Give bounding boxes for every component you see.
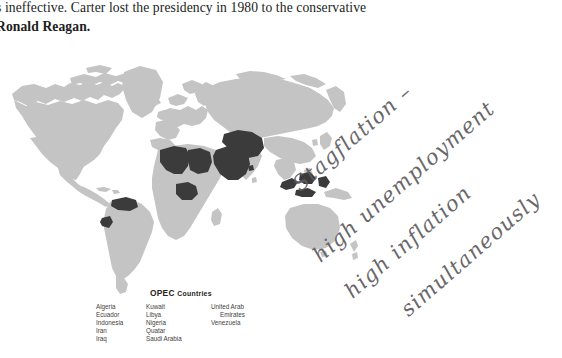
legend-column-3: United Arab Emirates Venezuela <box>211 303 291 343</box>
handwritten-note-simultaneously: simultaneously <box>396 187 545 321</box>
legend-column-1: Algeria Ecuador Indonesia Iran Iraq <box>96 303 146 343</box>
legend-item: Saudi Arabia <box>146 335 211 343</box>
country-libya <box>188 148 212 174</box>
legend-item: Algeria <box>96 303 146 311</box>
handwritten-note-high-inflation: high inflation <box>340 180 476 303</box>
map-legend: OPEC Countries Algeria Ecuador Indonesia… <box>96 288 306 343</box>
legend-title: OPEC Countries <box>150 288 306 298</box>
paragraph-line-1: s ineffective. Carter lost the presidenc… <box>0 0 366 15</box>
legend-item: Libya <box>146 311 211 319</box>
legend-item: Nigeria <box>146 319 211 327</box>
legend-columns: Algeria Ecuador Indonesia Iran Iraq Kuwa… <box>96 303 306 343</box>
legend-item: Iraq <box>96 335 146 343</box>
legend-column-2: Kuwait Libya Nigeria Quatar Saudi Arabia <box>146 303 211 343</box>
body-paragraph: s ineffective. Carter lost the presidenc… <box>0 0 396 36</box>
legend-item: Emirates <box>211 311 291 319</box>
legend-item: Kuwait <box>146 303 211 311</box>
legend-title-rest: Countries <box>177 290 211 297</box>
legend-item: United Arab <box>211 303 291 311</box>
legend-title-main: OPEC <box>150 288 175 298</box>
legend-item: Ecuador <box>96 311 146 319</box>
legend-item: Indonesia <box>96 319 146 327</box>
country-qatar-uae <box>248 165 254 171</box>
legend-item: Quatar <box>146 327 211 335</box>
paragraph-line-2: Ronald Reagan. <box>0 18 396 37</box>
legend-item: Venezuela <box>211 319 291 327</box>
page-canvas: s ineffective. Carter lost the presidenc… <box>0 0 562 358</box>
legend-item: Iran <box>96 327 146 335</box>
